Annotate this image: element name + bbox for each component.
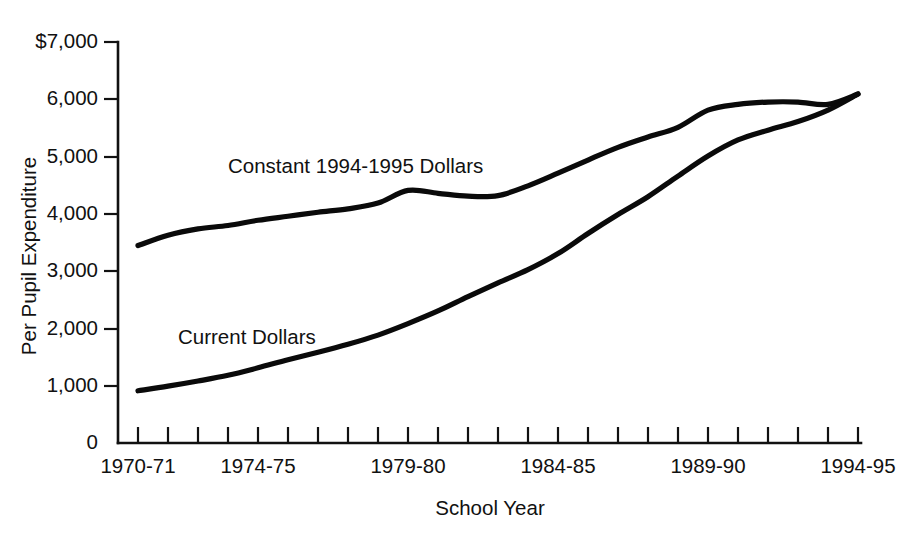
y-label-5000: 5,000 xyxy=(47,144,98,167)
x-label-1970-71: 1970-71 xyxy=(100,454,175,477)
x-label-1994-95: 1994-95 xyxy=(820,454,895,477)
x-axis-title: School Year xyxy=(435,496,545,519)
y-axis-title: Per Pupil Expenditure xyxy=(17,157,40,355)
y-label-3000: 3,000 xyxy=(47,258,98,281)
constant-series-label: Constant 1994-1995 Dollars xyxy=(228,154,483,177)
per-pupil-expenditure-chart: $7,000 6,000 5,000 4,000 3,000 2,000 1,0… xyxy=(0,0,923,541)
y-label-6000: 6,000 xyxy=(47,86,98,109)
chart-canvas: $7,000 6,000 5,000 4,000 3,000 2,000 1,0… xyxy=(0,0,923,541)
x-tick-labels: 1970-71 1974-75 1979-80 1984-85 1989-90 … xyxy=(100,454,895,477)
x-tick-marks xyxy=(138,427,858,443)
y-label-7000: $7,000 xyxy=(35,29,98,52)
x-label-1979-80: 1979-80 xyxy=(370,454,445,477)
x-label-1989-90: 1989-90 xyxy=(670,454,745,477)
y-tick-labels: $7,000 6,000 5,000 4,000 3,000 2,000 1,0… xyxy=(35,29,98,453)
x-label-1974-75: 1974-75 xyxy=(220,454,295,477)
y-label-4000: 4,000 xyxy=(47,201,98,224)
y-label-2000: 2,000 xyxy=(47,316,98,339)
y-tick-marks xyxy=(104,42,118,386)
y-label-1000: 1,000 xyxy=(47,373,98,396)
x-label-1984-85: 1984-85 xyxy=(520,454,595,477)
y-label-0: 0 xyxy=(87,430,98,453)
current-series-label: Current Dollars xyxy=(178,325,316,348)
